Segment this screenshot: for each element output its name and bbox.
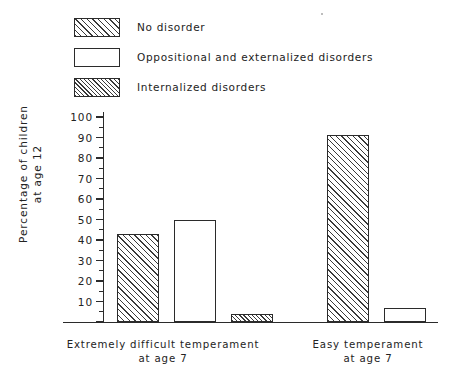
y-axis-major-tick — [96, 116, 103, 117]
bar — [231, 314, 273, 322]
x-axis-group-label-2-line-1: Easy temperament — [278, 338, 458, 352]
y-axis-major-tick — [96, 219, 103, 220]
y-axis-minor-tick — [99, 209, 104, 210]
y-axis-minor-tick — [99, 311, 104, 312]
x-axis-group-label-1-line-2: at age 7 — [53, 352, 273, 366]
y-axis-major-tick — [96, 301, 103, 302]
y-axis-title-line-1: Percentage of children — [16, 84, 30, 264]
y-axis-line — [103, 112, 104, 323]
y-axis-tick-label: 50 — [60, 214, 93, 226]
y-axis-tick-label: 40 — [60, 234, 93, 246]
y-axis-tick-label: 20 — [60, 275, 93, 287]
y-axis-major-tick — [96, 321, 103, 322]
y-axis-tick-label: 90 — [60, 132, 93, 144]
y-axis-major-tick — [96, 137, 103, 138]
y-axis-major-tick — [96, 198, 103, 199]
y-axis-major-tick — [96, 178, 103, 179]
y-axis-major-tick — [96, 260, 103, 261]
y-axis-tick-label: 100 — [60, 111, 93, 123]
y-axis-tick-label: 10 — [60, 296, 93, 308]
x-axis-group-label-2: Easy temperament at age 7 — [278, 338, 458, 366]
y-axis-minor-tick — [99, 168, 104, 169]
y-axis-minor-tick — [99, 250, 104, 251]
bar — [384, 308, 426, 322]
bar — [174, 220, 216, 323]
bar — [117, 234, 159, 322]
y-axis-major-tick — [96, 239, 103, 240]
bar-chart-figure: No disorder Oppositional and externalize… — [0, 0, 473, 381]
y-axis-minor-tick — [99, 188, 104, 189]
y-axis-tick-label: 70 — [60, 173, 93, 185]
y-axis-minor-tick — [99, 229, 104, 230]
y-axis-minor-tick — [99, 291, 104, 292]
y-axis-minor-tick — [99, 147, 104, 148]
y-axis-title: Percentage of children at age 12 — [16, 84, 44, 264]
plot-area: 100908070605040302010 Percentage of chil… — [0, 0, 473, 381]
y-axis-tick-label: 60 — [60, 193, 93, 205]
y-axis-major-tick — [96, 280, 103, 281]
y-axis-major-tick — [96, 157, 103, 158]
x-axis-group-label-1: Extremely difficult temperament at age 7 — [53, 338, 273, 366]
y-axis-tick-label: 30 — [60, 255, 93, 267]
bar — [327, 135, 369, 322]
y-axis-title-line-2: at age 12 — [30, 84, 44, 264]
x-axis-group-label-2-line-2: at age 7 — [278, 352, 458, 366]
y-axis-minor-tick — [99, 127, 104, 128]
y-axis-minor-tick — [99, 270, 104, 271]
y-axis-tick-label: 80 — [60, 152, 93, 164]
x-axis-group-label-1-line-1: Extremely difficult temperament — [53, 338, 273, 352]
